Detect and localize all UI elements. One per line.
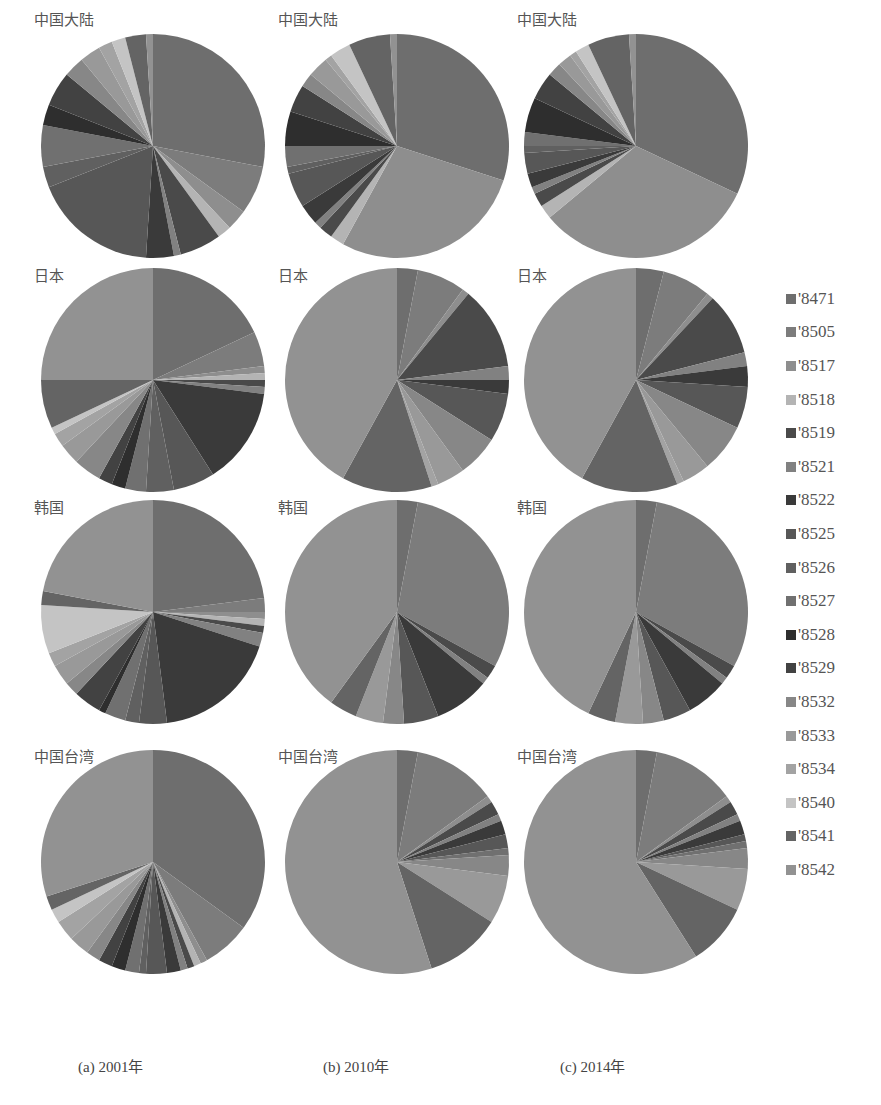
legend-item: '8532 xyxy=(786,685,835,719)
legend-swatch-icon xyxy=(786,529,796,539)
legend-label: '8540 xyxy=(798,793,835,813)
pie-slice xyxy=(153,500,264,612)
legend: '8471'8505'8517'8518'8519'8521'8522'8525… xyxy=(786,282,835,887)
pie-中国台湾-2010 xyxy=(283,748,511,976)
legend-label: '8527 xyxy=(798,591,835,611)
legend-label: '8518 xyxy=(798,390,835,410)
legend-swatch-icon xyxy=(786,764,796,774)
legend-label: '8521 xyxy=(798,457,835,477)
legend-item: '8528 xyxy=(786,618,835,652)
legend-item: '8529 xyxy=(786,652,835,686)
legend-item: '8525 xyxy=(786,517,835,551)
legend-label: '8525 xyxy=(798,524,835,544)
pie-title: 中国大陆 xyxy=(34,8,94,29)
legend-label: '8517 xyxy=(798,356,835,376)
legend-item: '8518 xyxy=(786,383,835,417)
caption-2010: (b) 2010年 xyxy=(323,1055,389,1076)
pie-日本-2010 xyxy=(283,266,511,494)
legend-item: '8526 xyxy=(786,551,835,585)
pie-中国大陆-2001 xyxy=(39,32,267,260)
pie-title: 中国大陆 xyxy=(517,8,577,29)
legend-swatch-icon xyxy=(786,495,796,505)
legend-swatch-icon xyxy=(786,563,796,573)
legend-swatch-icon xyxy=(786,831,796,841)
pie-韩国-2001 xyxy=(39,498,267,726)
legend-item: '8505 xyxy=(786,316,835,350)
legend-item: '8542 xyxy=(786,853,835,887)
legend-swatch-icon xyxy=(786,596,796,606)
legend-swatch-icon xyxy=(786,361,796,371)
legend-label: '8528 xyxy=(798,625,835,645)
pie-中国大陆-2010 xyxy=(283,32,511,260)
pie-中国大陆-2014 xyxy=(522,32,750,260)
legend-label: '8526 xyxy=(798,558,835,578)
pie-日本-2014 xyxy=(522,266,750,494)
legend-swatch-icon xyxy=(786,462,796,472)
legend-label: '8532 xyxy=(798,692,835,712)
legend-swatch-icon xyxy=(786,697,796,707)
legend-swatch-icon xyxy=(786,663,796,673)
caption-2014: (c) 2014年 xyxy=(560,1055,625,1076)
legend-label: '8529 xyxy=(798,658,835,678)
pie-slice xyxy=(41,268,153,380)
legend-swatch-icon xyxy=(786,798,796,808)
legend-swatch-icon xyxy=(786,327,796,337)
legend-swatch-icon xyxy=(786,395,796,405)
legend-item: '8517 xyxy=(786,349,835,383)
legend-item: '8519 xyxy=(786,416,835,450)
legend-item: '8471 xyxy=(786,282,835,316)
caption-2001: (a) 2001年 xyxy=(78,1055,143,1076)
legend-swatch-icon xyxy=(786,865,796,875)
legend-swatch-icon xyxy=(786,630,796,640)
legend-label: '8519 xyxy=(798,423,835,443)
legend-item: '8541 xyxy=(786,820,835,854)
legend-swatch-icon xyxy=(786,428,796,438)
pie-slice xyxy=(153,34,265,167)
pie-中国台湾-2014 xyxy=(522,748,750,976)
legend-item: '8522 xyxy=(786,484,835,518)
pie-韩国-2010 xyxy=(283,498,511,726)
legend-label: '8471 xyxy=(798,289,835,309)
legend-label: '8542 xyxy=(798,860,835,880)
legend-item: '8521 xyxy=(786,450,835,484)
legend-label: '8541 xyxy=(798,826,835,846)
pie-日本-2001 xyxy=(39,266,267,494)
legend-swatch-icon xyxy=(786,294,796,304)
legend-item: '8527 xyxy=(786,584,835,618)
pie-韩国-2014 xyxy=(522,498,750,726)
legend-label: '8522 xyxy=(798,490,835,510)
legend-label: '8534 xyxy=(798,759,835,779)
legend-item: '8533 xyxy=(786,719,835,753)
legend-item: '8534 xyxy=(786,752,835,786)
legend-swatch-icon xyxy=(786,731,796,741)
pie-中国台湾-2001 xyxy=(39,748,267,976)
legend-label: '8505 xyxy=(798,322,835,342)
pie-title: 中国大陆 xyxy=(278,8,338,29)
legend-item: '8540 xyxy=(786,786,835,820)
legend-label: '8533 xyxy=(798,726,835,746)
